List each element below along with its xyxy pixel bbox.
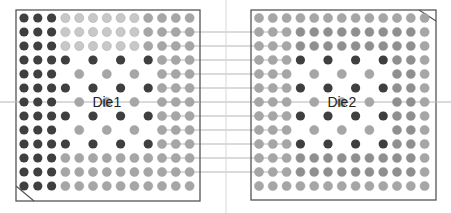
- ball-medium: [254, 153, 263, 162]
- ball-medium: [420, 69, 429, 78]
- ball-medium: [88, 181, 97, 190]
- ball-medium: [392, 13, 401, 22]
- ball-medium: [144, 27, 153, 36]
- ball-medium: [282, 69, 291, 78]
- ball-dark: [19, 69, 28, 78]
- ball-medium: [268, 153, 277, 162]
- ball-dark: [47, 41, 56, 50]
- ball-light: [130, 13, 139, 22]
- ball-medium: [268, 97, 277, 106]
- ball-medium: [157, 181, 166, 190]
- ball-medium: [102, 167, 111, 176]
- ball-dark: [88, 111, 97, 120]
- ball-medium: [102, 153, 111, 162]
- ball-medium: [420, 41, 429, 50]
- ball-medium2: [406, 41, 415, 50]
- ball-dark: [116, 83, 125, 92]
- ball-medium: [420, 27, 429, 36]
- ball-dark: [47, 139, 56, 148]
- ball-light: [88, 13, 97, 22]
- die1-label: Die1: [92, 94, 121, 110]
- ball-medium2: [310, 27, 319, 36]
- ball-medium: [337, 181, 346, 190]
- ball-dark: [33, 83, 42, 92]
- ball-medium: [157, 13, 166, 22]
- ball-medium: [282, 27, 291, 36]
- ball-dark: [33, 111, 42, 120]
- ball-medium2: [337, 153, 346, 162]
- ball-dark: [19, 97, 28, 106]
- ball-medium: [61, 167, 70, 176]
- ball-light: [61, 27, 70, 36]
- ball-medium2: [323, 153, 332, 162]
- ball-medium: [268, 167, 277, 176]
- ball-light: [130, 41, 139, 50]
- ball-medium: [268, 125, 277, 134]
- ball-medium: [185, 153, 194, 162]
- ball-medium: [185, 13, 194, 22]
- ball-dark: [33, 13, 42, 22]
- ball-medium2: [337, 41, 346, 50]
- ball-medium: [282, 41, 291, 50]
- ball-medium: [185, 181, 194, 190]
- ball-medium2: [406, 55, 415, 64]
- ball-dark: [323, 55, 332, 64]
- ball-medium: [420, 167, 429, 176]
- ball-light: [61, 13, 70, 22]
- ball-dark: [88, 55, 97, 64]
- ball-dark: [19, 41, 28, 50]
- ball-dark: [19, 153, 28, 162]
- ball-dark: [47, 13, 56, 22]
- ball-medium: [75, 69, 84, 78]
- ball-medium: [157, 69, 166, 78]
- ball-dark: [296, 83, 305, 92]
- ball-medium: [171, 13, 180, 22]
- ball-medium: [365, 13, 374, 22]
- ball-dark: [351, 55, 360, 64]
- ball-medium2: [296, 167, 305, 176]
- ball-dark: [47, 69, 56, 78]
- ball-medium2: [392, 69, 401, 78]
- ball-medium: [268, 139, 277, 148]
- die-interconnect-diagram: Die1 Die2: [0, 0, 451, 213]
- ball-dark: [116, 111, 125, 120]
- ball-dark: [144, 111, 153, 120]
- ball-medium: [310, 97, 319, 106]
- ball-medium: [157, 97, 166, 106]
- ball-medium: [185, 139, 194, 148]
- ball-medium: [171, 69, 180, 78]
- ball-medium2: [406, 167, 415, 176]
- ball-medium: [254, 83, 263, 92]
- ball-medium: [144, 167, 153, 176]
- ball-medium2: [406, 83, 415, 92]
- ball-medium: [171, 167, 180, 176]
- ball-medium: [420, 55, 429, 64]
- ball-medium: [420, 111, 429, 120]
- ball-dark: [19, 13, 28, 22]
- ball-medium: [337, 13, 346, 22]
- ball-medium: [157, 41, 166, 50]
- ball-medium: [185, 69, 194, 78]
- ball-medium: [379, 13, 388, 22]
- ball-light: [116, 27, 125, 36]
- ball-dark: [61, 55, 70, 64]
- ball-dark: [379, 139, 388, 148]
- ball-medium2: [296, 41, 305, 50]
- ball-medium2: [392, 111, 401, 120]
- ball-medium2: [351, 41, 360, 50]
- ball-medium: [268, 181, 277, 190]
- ball-medium: [254, 13, 263, 22]
- ball-dark: [33, 153, 42, 162]
- ball-medium: [88, 153, 97, 162]
- ball-medium: [351, 181, 360, 190]
- ball-dark: [19, 181, 28, 190]
- ball-dark: [144, 139, 153, 148]
- ball-medium: [268, 27, 277, 36]
- ball-medium2: [406, 97, 415, 106]
- ball-medium: [282, 111, 291, 120]
- ball-medium: [379, 181, 388, 190]
- ball-medium: [282, 125, 291, 134]
- ball-dark: [47, 97, 56, 106]
- ball-medium: [116, 181, 125, 190]
- ball-medium: [254, 181, 263, 190]
